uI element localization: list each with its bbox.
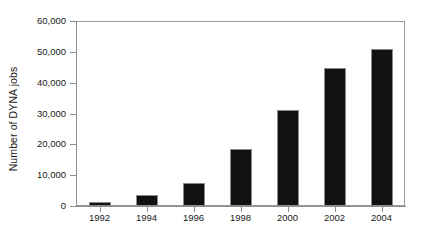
- x-axis-ticks: 1992199419961998200020022004: [0, 0, 421, 238]
- x-tick-label-1992: 1992: [77, 213, 123, 223]
- chart-figure: Number of DYNA jobs 010,00020,00030,0004…: [0, 0, 421, 238]
- x-tick-label-1994: 1994: [124, 213, 170, 223]
- x-tick-label-2002: 2002: [312, 213, 358, 223]
- x-tick-label-1998: 1998: [218, 213, 264, 223]
- x-tick-label-2004: 2004: [359, 213, 405, 223]
- x-tick-label-2000: 2000: [265, 213, 311, 223]
- x-tick-label-1996: 1996: [171, 213, 217, 223]
